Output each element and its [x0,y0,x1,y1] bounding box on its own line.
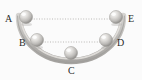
point-label-b: B [19,38,26,48]
physics-diagram-semicircular-track: A B C D E [0,0,142,80]
point-label-a: A [5,14,12,24]
ball-d [100,34,113,50]
ball-e [110,11,123,27]
point-label-e: E [128,14,134,24]
point-label-d: D [117,38,124,48]
point-label-c: C [68,66,75,76]
